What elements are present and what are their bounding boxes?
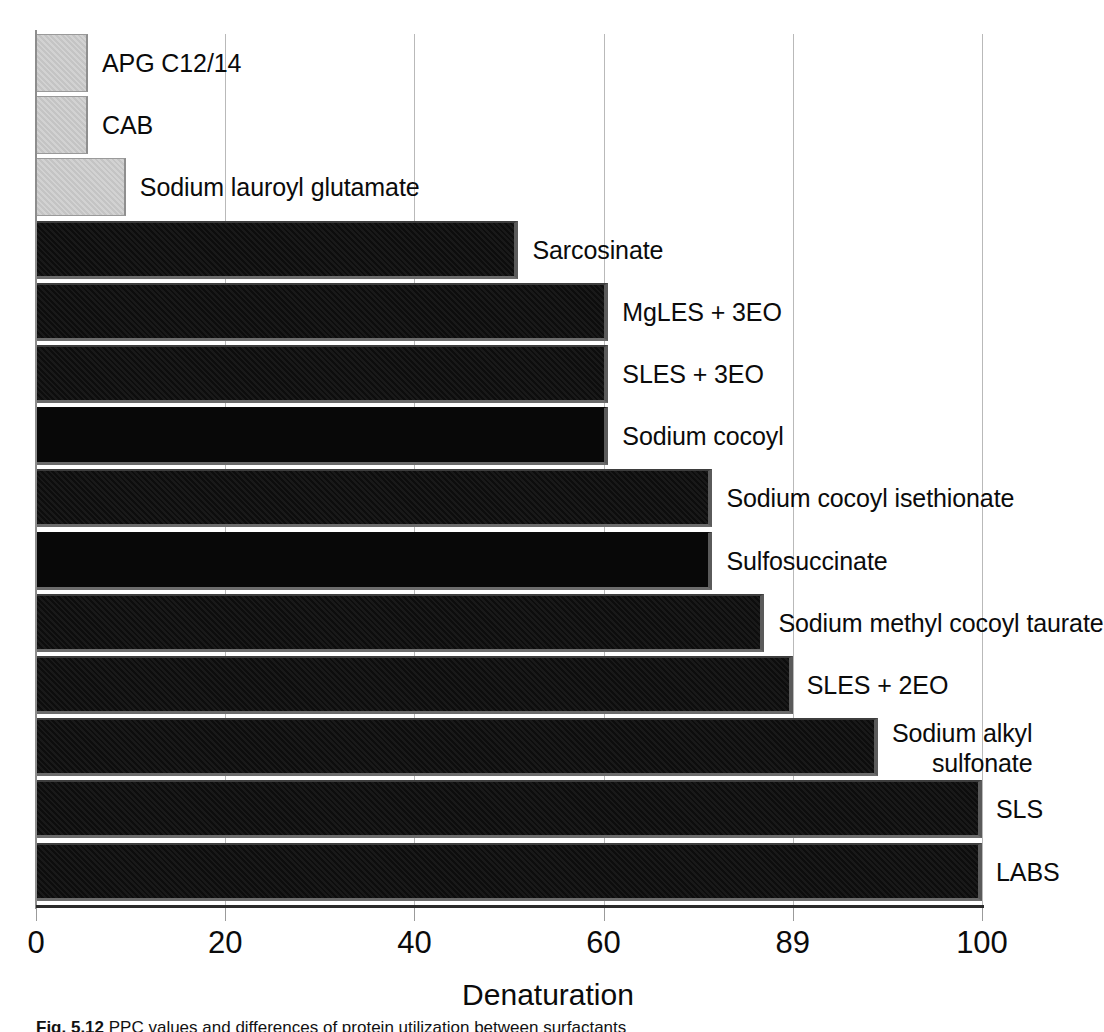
bar-row: SLES + 3EO bbox=[36, 345, 982, 407]
bar-row: Sodium lauroyl glutamate bbox=[36, 158, 982, 220]
figure-caption: Fig. 5.12 PPC values and differences of … bbox=[36, 1018, 1056, 1032]
x-axis-tick bbox=[36, 908, 37, 921]
x-axis-tick bbox=[982, 908, 983, 921]
bar-label: CAB bbox=[102, 110, 153, 140]
bar-label: Sodium cocoyl bbox=[622, 421, 783, 451]
bar bbox=[36, 345, 608, 403]
x-axis-tick bbox=[414, 908, 415, 921]
bar bbox=[36, 34, 88, 92]
x-axis-tick-label: 40 bbox=[397, 925, 431, 961]
bar-label: SLS bbox=[996, 794, 1043, 824]
bar bbox=[36, 532, 712, 590]
x-axis-title: Denaturation bbox=[0, 977, 1096, 1013]
bar-label: Sulfosuccinate bbox=[726, 546, 887, 576]
bar-label: Sodium alkyl sulfonate bbox=[892, 718, 1033, 778]
bar-label: APG C12/14 bbox=[102, 48, 241, 78]
bar-row: Sodium alkyl sulfonate bbox=[36, 718, 982, 780]
bar bbox=[36, 283, 608, 341]
bar-row: Sodium methyl cocoyl taurate bbox=[36, 594, 982, 656]
bar-row: MgLES + 3EO bbox=[36, 283, 982, 345]
bar-series: APG C12/14CABSodium lauroyl glutamateSar… bbox=[36, 34, 982, 905]
x-axis-tick-label: 20 bbox=[208, 925, 242, 961]
bar bbox=[36, 158, 126, 216]
caption-prefix: Fig. 5.12 bbox=[36, 1018, 104, 1032]
bar bbox=[36, 96, 88, 154]
bar-label: MgLES + 3EO bbox=[622, 297, 781, 327]
bar-label: SLES + 2EO bbox=[807, 670, 948, 700]
x-axis-tick bbox=[793, 908, 794, 921]
bar-label: Sarcosinate bbox=[532, 235, 663, 265]
x-axis-tick-label: 60 bbox=[586, 925, 620, 961]
plot-area: APG C12/14CABSodium lauroyl glutamateSar… bbox=[36, 34, 982, 905]
bar-row: SLS bbox=[36, 780, 982, 842]
bar-row: Sarcosinate bbox=[36, 221, 982, 283]
bar-label: Sodium cocoyl isethionate bbox=[726, 483, 1014, 513]
x-axis-tick bbox=[225, 908, 226, 921]
bar bbox=[36, 469, 712, 527]
x-axis-tick-label: 89 bbox=[776, 925, 810, 961]
bar bbox=[36, 656, 793, 714]
x-axis-tick-label: 100 bbox=[956, 925, 1008, 961]
bar-row: APG C12/14 bbox=[36, 34, 982, 96]
bar bbox=[36, 221, 518, 279]
x-axis-tick bbox=[604, 908, 605, 921]
bar-label: LABS bbox=[996, 857, 1060, 887]
bar-row: Sodium cocoyl bbox=[36, 407, 982, 469]
x-axis-line bbox=[36, 905, 984, 908]
caption-text: PPC values and differences of protein ut… bbox=[104, 1018, 626, 1032]
bar bbox=[36, 594, 764, 652]
bar bbox=[36, 407, 608, 465]
bar bbox=[36, 843, 982, 901]
bar-label: Sodium methyl cocoyl taurate bbox=[778, 608, 1103, 638]
x-axis-tick-label: 0 bbox=[27, 925, 44, 961]
bar-label: SLES + 3EO bbox=[622, 359, 763, 389]
bar-row: LABS bbox=[36, 843, 982, 905]
bar-row: Sodium cocoyl isethionate bbox=[36, 469, 982, 531]
bar-row: CAB bbox=[36, 96, 982, 158]
bar bbox=[36, 780, 982, 838]
bar-row: Sulfosuccinate bbox=[36, 532, 982, 594]
y-axis-line bbox=[35, 30, 37, 909]
bar-row: SLES + 2EO bbox=[36, 656, 982, 718]
bar bbox=[36, 718, 878, 776]
bar-label: Sodium lauroyl glutamate bbox=[140, 172, 420, 202]
